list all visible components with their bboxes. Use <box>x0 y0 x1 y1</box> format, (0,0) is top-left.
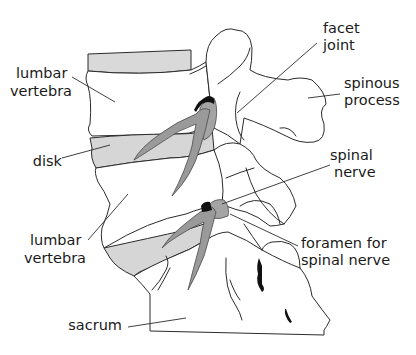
label-foramen: foramen for spinal nerve <box>301 235 391 268</box>
label-lumbar-vertebra-top: lumbar vertebra <box>10 65 72 99</box>
lumbar-spine-diagram: lumbar vertebra disk lumbar vertebra sac… <box>0 0 416 355</box>
label-lumbar-vertebra-bottom: lumbar vertebra <box>24 232 86 266</box>
label-spinal-nerve: spinal nerve <box>330 147 378 180</box>
upper-lamina <box>206 29 326 144</box>
label-facet-joint: facet joint <box>322 20 364 53</box>
upper-endplate-cap <box>88 50 191 73</box>
label-sacrum: sacrum <box>68 317 122 333</box>
label-disk: disk <box>33 153 63 169</box>
label-spinous-process: spinous process <box>344 75 404 108</box>
